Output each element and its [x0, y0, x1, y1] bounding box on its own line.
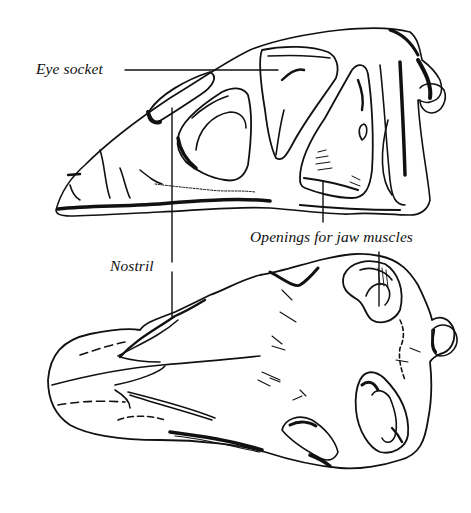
- eye-socket-label: Eye socket: [36, 60, 103, 78]
- figure-canvas: Eye socket Nostril Openings for jaw musc…: [0, 0, 471, 513]
- skull-top-view: [48, 254, 457, 469]
- jaw-opening-top-upper: [343, 261, 402, 322]
- nostril-label: Nostril: [110, 257, 154, 275]
- eye-socket-outline: [260, 47, 338, 159]
- jaw-muscles-label: Openings for jaw muscles: [250, 228, 413, 246]
- skull-side-view: [56, 28, 445, 216]
